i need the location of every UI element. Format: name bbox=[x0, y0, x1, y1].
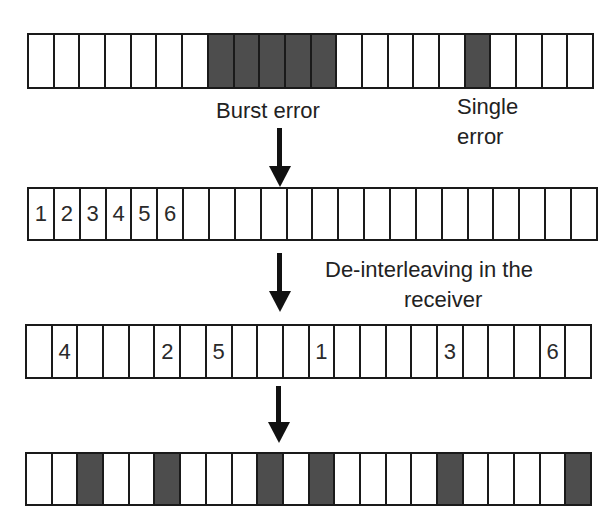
bit-cell: 5 bbox=[132, 189, 158, 239]
bit-cell bbox=[258, 326, 284, 377]
bit-cell bbox=[104, 326, 130, 377]
error-cell bbox=[235, 35, 261, 87]
bit-cell bbox=[233, 326, 259, 377]
bit-cell bbox=[313, 189, 339, 239]
bit-cell: 4 bbox=[53, 326, 79, 377]
deinterleave-label-line1: De-interleaving in the bbox=[325, 256, 533, 284]
deinterleave-label-line2: receiver bbox=[404, 286, 482, 314]
bit-cell bbox=[339, 189, 365, 239]
error-cell bbox=[155, 454, 181, 504]
bit-cell: 6 bbox=[541, 326, 567, 377]
bit-cell bbox=[489, 326, 515, 377]
bit-cell bbox=[27, 326, 53, 377]
bit-cell bbox=[80, 35, 106, 87]
bit-cell bbox=[262, 189, 288, 239]
bit-cell bbox=[207, 454, 233, 504]
error-cell bbox=[566, 454, 590, 504]
single-error-label-line2: error bbox=[457, 123, 503, 151]
bit-cell bbox=[53, 454, 79, 504]
bit-cell: 3 bbox=[81, 189, 107, 239]
error-cell bbox=[260, 35, 286, 87]
bit-cell bbox=[236, 189, 262, 239]
bit-cell: 3 bbox=[438, 326, 464, 377]
bit-cell bbox=[27, 454, 53, 504]
error-cell bbox=[78, 454, 104, 504]
row-deinterleaved-positions: 425136 bbox=[25, 324, 592, 379]
bit-cell: 5 bbox=[207, 326, 233, 377]
bit-cell bbox=[515, 326, 541, 377]
single-error-label-line1: Single bbox=[457, 93, 518, 121]
bit-cell: 1 bbox=[29, 189, 55, 239]
bit-cell bbox=[412, 454, 438, 504]
bit-cell: 2 bbox=[155, 326, 181, 377]
bit-cell bbox=[55, 35, 81, 87]
bit-cell bbox=[361, 326, 387, 377]
bit-cell bbox=[387, 454, 413, 504]
bit-cell bbox=[184, 189, 210, 239]
bit-cell bbox=[414, 35, 440, 87]
bit-cell bbox=[520, 189, 546, 239]
bit-cell bbox=[233, 454, 259, 504]
bit-cell bbox=[546, 189, 572, 239]
bit-cell bbox=[443, 189, 469, 239]
bit-cell bbox=[568, 35, 592, 87]
error-cell bbox=[310, 454, 336, 504]
bit-cell bbox=[494, 189, 520, 239]
bit-cell bbox=[469, 189, 495, 239]
bit-cell: 6 bbox=[158, 189, 184, 239]
bit-cell bbox=[132, 35, 158, 87]
bit-cell bbox=[106, 35, 132, 87]
bit-cell bbox=[515, 454, 541, 504]
bit-cell: 4 bbox=[107, 189, 133, 239]
bit-cell: 1 bbox=[310, 326, 336, 377]
burst-error-label: Burst error bbox=[216, 97, 320, 125]
bit-cell bbox=[78, 326, 104, 377]
bit-cell bbox=[572, 189, 596, 239]
bit-cell bbox=[491, 35, 517, 87]
bit-cell bbox=[288, 189, 314, 239]
bit-cell bbox=[489, 454, 515, 504]
error-cell bbox=[466, 35, 492, 87]
bit-cell bbox=[417, 189, 443, 239]
bit-cell bbox=[361, 454, 387, 504]
bit-cell bbox=[363, 35, 389, 87]
error-cell bbox=[286, 35, 312, 87]
bit-cell bbox=[284, 326, 310, 377]
bit-cell: 2 bbox=[55, 189, 81, 239]
bit-cell bbox=[566, 326, 590, 377]
bit-cell bbox=[130, 326, 156, 377]
bit-cell bbox=[543, 35, 569, 87]
bit-cell bbox=[464, 326, 490, 377]
bit-cell bbox=[181, 454, 207, 504]
bit-cell bbox=[517, 35, 543, 87]
bit-cell bbox=[130, 454, 156, 504]
bit-cell bbox=[464, 454, 490, 504]
error-cell bbox=[438, 454, 464, 504]
bit-cell bbox=[335, 326, 361, 377]
bit-cell bbox=[337, 35, 363, 87]
bit-cell bbox=[181, 326, 207, 377]
row-received-ordered: 123456 bbox=[27, 187, 598, 241]
error-cell bbox=[209, 35, 235, 87]
bit-cell bbox=[335, 454, 361, 504]
bit-cell bbox=[440, 35, 466, 87]
bit-cell bbox=[389, 35, 415, 87]
row-scattered-errors bbox=[25, 452, 592, 506]
bit-cell bbox=[391, 189, 417, 239]
bit-cell bbox=[210, 189, 236, 239]
bit-cell bbox=[365, 189, 391, 239]
bit-cell bbox=[387, 326, 413, 377]
bit-cell bbox=[284, 454, 310, 504]
bit-cell bbox=[104, 454, 130, 504]
bit-cell bbox=[29, 35, 55, 87]
bit-cell bbox=[183, 35, 209, 87]
row-transmitted bbox=[27, 33, 594, 89]
error-cell bbox=[258, 454, 284, 504]
bit-cell bbox=[157, 35, 183, 87]
bit-cell bbox=[541, 454, 567, 504]
bit-cell bbox=[412, 326, 438, 377]
error-cell bbox=[312, 35, 338, 87]
